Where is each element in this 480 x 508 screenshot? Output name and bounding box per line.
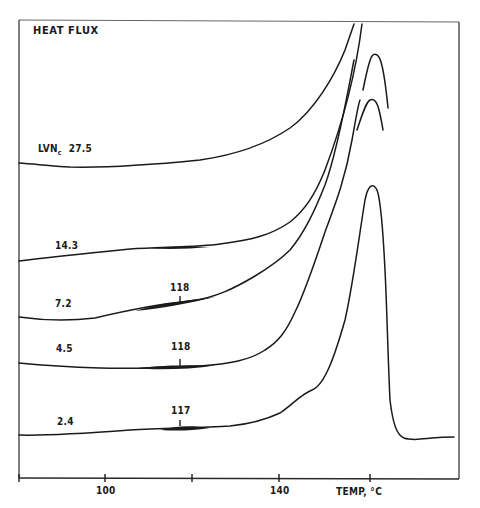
- lvn-subscript: c: [58, 149, 62, 157]
- annotation-2-4: 117: [171, 405, 191, 416]
- plot-frame: [19, 20, 459, 479]
- lvn-prefix: LVN: [38, 143, 58, 154]
- curve-lvn-7-2-peak: [357, 99, 383, 130]
- annotation-7-2: 118: [170, 282, 190, 293]
- x-axis-label: TEMP, °C: [336, 486, 382, 497]
- curve-lvn-2-4: [19, 186, 454, 440]
- series-label-4-5: 4.5: [56, 343, 73, 354]
- shoulder-marks: [135, 246, 215, 430]
- curve-lvn-7-2: [19, 60, 354, 320]
- y-axis-label: HEAT FLUX: [33, 24, 99, 37]
- x-axis: [19, 478, 459, 479]
- x-tick-label-140: 140: [270, 485, 290, 496]
- x-tick-label-100: 100: [96, 485, 116, 496]
- curve-lvn-4-5: [19, 100, 360, 368]
- series-label-7-2: 7.2: [55, 298, 72, 309]
- series-label-14-3: 14.3: [55, 240, 78, 251]
- lvn-value: 27.5: [69, 143, 92, 154]
- dsc-thermogram: [0, 0, 480, 508]
- series-label-2-4: 2.4: [57, 416, 74, 427]
- annotation-4-5: 118: [171, 341, 191, 352]
- curve-lvn-14-3-peak: [363, 54, 388, 108]
- series-label-27-5: LVNc 27.5: [38, 143, 92, 157]
